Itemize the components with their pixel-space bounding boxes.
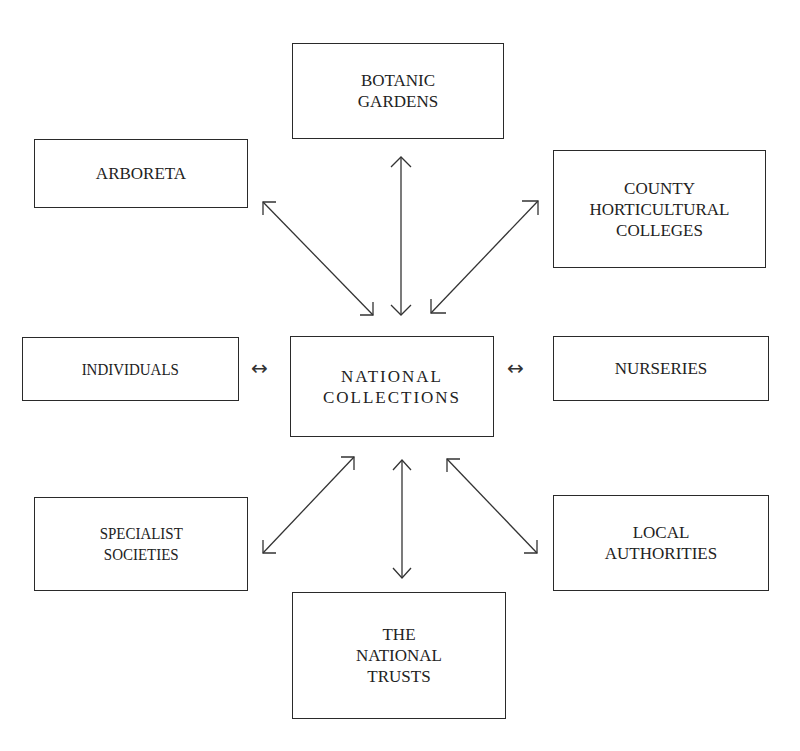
arrowhead-icon [393, 460, 411, 470]
edge-line [263, 202, 373, 315]
node-county-horticultural-colleges: COUNTY HORTICULTURAL COLLEGES [553, 150, 766, 268]
arrowhead-icon [360, 302, 373, 315]
arrowhead-icon [431, 299, 446, 313]
edge-line [263, 457, 354, 553]
edge-arboreta [263, 202, 373, 315]
node-nurseries: NURSERIES [553, 336, 769, 401]
arrowhead-icon [524, 540, 537, 553]
node-label: COUNTY HORTICULTURAL COLLEGES [589, 178, 729, 241]
edge-line [447, 459, 537, 553]
arrowhead-icon [522, 201, 538, 215]
node-botanic-gardens: BOTANIC GARDENS [292, 43, 504, 139]
node-arboreta: ARBORETA [34, 139, 248, 208]
node-specialist-societies: SPECIALIST SOCIETIES [34, 497, 248, 591]
node-individuals: INDIVIDUALS [22, 337, 239, 401]
arrowhead-icon [341, 457, 354, 470]
node-label: LOCAL AUTHORITIES [605, 522, 717, 564]
node-local-authorities: LOCAL AUTHORITIES [553, 495, 769, 591]
node-label: NATIONAL COLLECTIONS [323, 366, 461, 408]
double-arrow-icon: ↔ [507, 356, 524, 380]
arrowhead-icon [393, 568, 411, 578]
node-the-national-trusts: THE NATIONAL TRUSTS [292, 592, 506, 719]
edge-botanic-gardens [391, 157, 411, 315]
edge-county-horticultural-colleges [431, 201, 538, 313]
edge-local-authorities [447, 459, 537, 553]
double-arrow-icon: ↔ [251, 356, 268, 380]
edge-individuals: ↔ [251, 358, 268, 378]
edge-the-national-trusts [393, 460, 411, 578]
node-label: BOTANIC GARDENS [358, 70, 438, 112]
arrowhead-icon [391, 305, 411, 315]
edge-specialist-societies [263, 457, 354, 553]
node-label: THE NATIONAL TRUSTS [356, 624, 442, 687]
arrowhead-icon [263, 540, 276, 553]
node-national-collections: NATIONAL COLLECTIONS [290, 336, 494, 437]
edge-nurseries: ↔ [507, 358, 524, 378]
arrowhead-icon [447, 459, 460, 472]
node-label: NURSERIES [615, 358, 708, 379]
node-label: SPECIALIST SOCIETIES [99, 523, 182, 565]
node-label: INDIVIDUALS [82, 359, 179, 380]
arrowhead-icon [263, 202, 276, 215]
edge-line [431, 201, 538, 313]
node-label: ARBORETA [96, 163, 186, 184]
arrowhead-icon [391, 157, 411, 167]
